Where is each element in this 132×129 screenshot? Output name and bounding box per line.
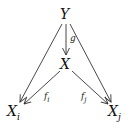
arrow-x-to-xj <box>72 71 108 104</box>
node-y: Y <box>60 7 69 21</box>
node-x-j-sub: j <box>118 112 121 122</box>
edge-label-f-i-sub: i <box>47 96 49 104</box>
edge-label-g: g <box>70 34 76 43</box>
node-x: X <box>60 57 70 71</box>
node-x-i-base: X <box>7 103 17 119</box>
node-x-j-base: X <box>108 103 118 119</box>
node-x-j: Xj <box>108 104 121 122</box>
node-x-i: Xi <box>7 104 20 122</box>
node-x-i-sub: i <box>17 112 20 122</box>
arrow-x-to-xi <box>24 71 60 104</box>
arrow-y-to-xj <box>70 24 111 102</box>
edge-label-f-i: fi <box>44 92 50 104</box>
edge-label-f-j-sub: j <box>84 96 86 104</box>
arrow-y-to-xi <box>20 24 62 102</box>
edge-label-f-j: fj <box>81 92 87 104</box>
